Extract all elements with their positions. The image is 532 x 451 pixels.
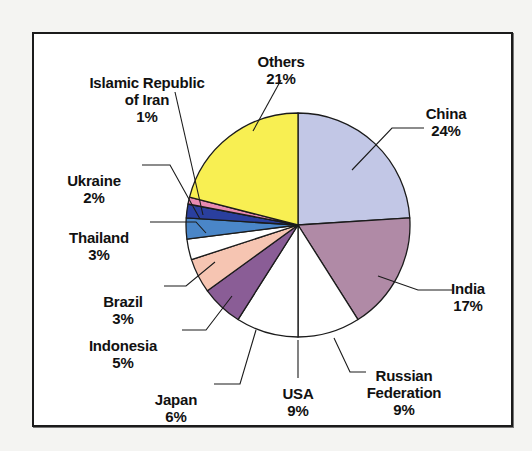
pie-label-china-pct: 24% [404,122,488,139]
pie-label-china-name: China [426,105,467,122]
pie-label-brazil: Brazil 3% [82,276,164,344]
figure-root: China 24% India 17% Russian Federation 9… [0,0,532,451]
pie-label-thailand-name: Thailand [69,229,129,246]
pie-label-usa-name: USA [282,385,313,402]
pie-label-russia-name: Russian Federation [367,367,442,401]
pie-label-russian-federation: Russian Federation 9% [346,350,462,435]
pie-label-usa: USA 9% [262,368,334,436]
pie-label-brazil-name: Brazil [103,293,143,310]
pie-label-russia-pct: 9% [346,401,462,418]
pie-label-indonesia-pct: 5% [64,354,182,371]
pie-label-others: Others 21% [233,36,329,104]
pie-label-china: China 24% [404,88,488,156]
pie-label-japan-name: Japan [155,391,197,408]
pie-label-iran-name: Islamic Republic of Iran [89,74,204,108]
pie-label-thailand-pct: 3% [48,246,150,263]
pie-label-iran-pct: 1% [62,108,232,125]
pie-label-india: India 17% [432,263,504,331]
pie-label-ukraine-pct: 2% [46,189,142,206]
pie-label-iran: Islamic Republic of Iran 1% [62,57,232,142]
pie-label-usa-pct: 9% [262,402,334,419]
pie-label-others-name: Others [257,53,304,70]
pie-label-india-pct: 17% [432,297,504,314]
pie-label-ukraine: Ukraine 2% [46,155,142,223]
pie-label-brazil-pct: 3% [82,310,164,327]
pie-label-japan-pct: 6% [136,408,216,425]
pie-label-others-pct: 21% [233,70,329,87]
pie-label-india-name: India [451,280,485,297]
pie-label-ukraine-name: Ukraine [67,172,121,189]
